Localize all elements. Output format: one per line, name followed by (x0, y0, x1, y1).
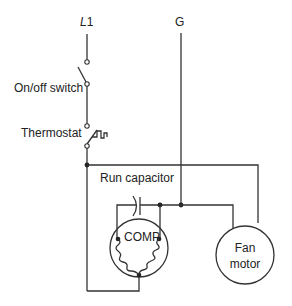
compressor-label: COMP (124, 230, 160, 244)
compressor: COMP (110, 219, 168, 277)
l1-label: L1 (80, 15, 94, 29)
capacitor-curved-plate (133, 196, 137, 216)
thermostat-bottom-terminal (85, 144, 89, 148)
onoff-switch-label: On/off switch (14, 81, 83, 95)
comp-common-wire (87, 276, 139, 291)
onoff-switch-top-terminal (85, 60, 89, 64)
thermostat-top-terminal (85, 124, 89, 128)
onoff-switch-bottom-terminal (85, 82, 89, 86)
thermostat-label: Thermostat (21, 126, 82, 140)
run-capacitor (133, 196, 140, 216)
run-capacitor-label: Run capacitor (100, 171, 174, 185)
fan-motor-housing (216, 226, 274, 284)
thermostat (85, 130, 107, 148)
fan-motor-label-line1: Fan (235, 241, 256, 255)
capacitor-to-fan-wire (140, 205, 233, 228)
fan-motor-label-line2: motor (230, 257, 261, 271)
wiring-diagram: L1 On/off switch Thermostat G Run capaci… (0, 0, 292, 306)
comp-run-winding (139, 239, 159, 275)
onoff-switch-blade (78, 67, 86, 82)
fan-motor: Fan motor (216, 226, 274, 284)
ground-label: G (175, 15, 184, 29)
